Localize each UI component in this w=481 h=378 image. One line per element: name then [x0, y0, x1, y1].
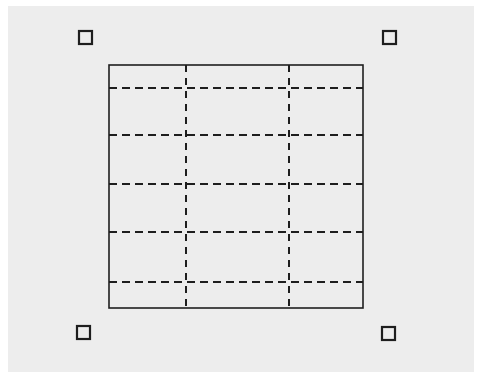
resize-handles[interactable] [77, 31, 396, 340]
resize-handle-bottom-right[interactable] [382, 327, 395, 340]
grid-diagram [0, 0, 481, 378]
resize-handle-top-left[interactable] [79, 31, 92, 44]
resize-handle-top-right[interactable] [383, 31, 396, 44]
selection-frame[interactable] [109, 65, 363, 308]
resize-handle-bottom-left[interactable] [77, 326, 90, 339]
dashed-guides [109, 65, 363, 308]
